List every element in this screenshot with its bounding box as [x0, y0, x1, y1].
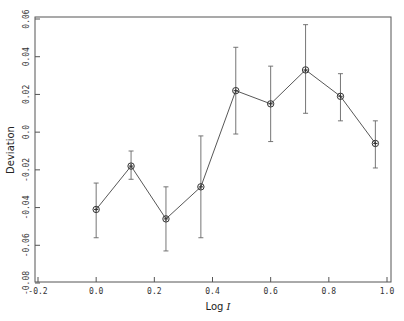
error-bars	[94, 25, 378, 251]
x-tick-label: 0.8	[322, 287, 337, 296]
plot-frame	[35, 17, 391, 282]
x-axis-title-text: Log	[205, 301, 223, 312]
y-axis-title: Deviation	[5, 126, 16, 174]
data-markers	[93, 67, 379, 222]
y-tick-label: -0.08	[22, 271, 31, 295]
y-tick-label: -0.02	[22, 158, 31, 182]
x-tick-label: 1.0	[380, 287, 395, 296]
deviation-chart: -0.20.00.20.40.60.81.0 -0.08-0.06-0.04-0…	[0, 0, 404, 321]
y-tick-label: 0.06	[22, 9, 31, 28]
y-tick-label: 0.02	[22, 85, 31, 104]
y-axis: -0.08-0.06-0.04-0.020.00.020.040.06	[22, 9, 40, 295]
x-axis: -0.20.00.20.40.60.81.0	[28, 277, 394, 296]
y-tick-label: -0.06	[22, 233, 31, 257]
x-tick-label: 0.4	[205, 287, 220, 296]
x-tick-label: 0.0	[89, 287, 104, 296]
y-tick-label: 0.0	[22, 125, 31, 140]
x-tick-label: -0.2	[28, 287, 47, 296]
x-tick-label: 0.2	[147, 287, 162, 296]
y-tick-label: -0.04	[22, 195, 31, 219]
x-axis-title-italic: I	[226, 301, 232, 312]
x-tick-label: 0.6	[263, 287, 278, 296]
y-tick-label: 0.04	[22, 47, 31, 66]
x-axis-title: Log I	[205, 301, 231, 312]
